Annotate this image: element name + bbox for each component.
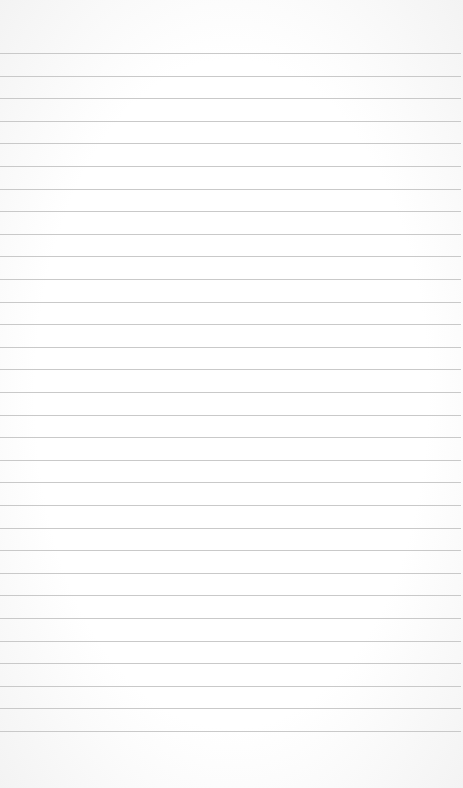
ruled-line [0, 234, 461, 235]
ruled-line [0, 641, 461, 642]
ruled-line [0, 211, 461, 212]
ruled-line [0, 369, 461, 370]
ruled-line [0, 53, 461, 54]
ruled-line [0, 731, 461, 732]
ruled-line [0, 279, 461, 280]
ruled-line [0, 98, 461, 99]
ruled-line [0, 595, 461, 596]
ruled-line [0, 437, 461, 438]
ruled-line [0, 460, 461, 461]
ruled-line [0, 76, 461, 77]
ruled-line [0, 121, 461, 122]
ruled-line [0, 550, 461, 551]
ruled-line [0, 528, 461, 529]
ruled-line [0, 392, 461, 393]
ruled-line [0, 189, 461, 190]
ruled-line [0, 143, 461, 144]
ruled-line [0, 663, 461, 664]
ruled-line [0, 708, 461, 709]
ruled-line [0, 347, 461, 348]
ruled-line [0, 573, 461, 574]
ruled-line [0, 166, 461, 167]
ruled-line [0, 482, 461, 483]
lined-paper [0, 0, 463, 788]
ruled-line [0, 256, 461, 257]
ruled-line [0, 618, 461, 619]
ruled-line [0, 324, 461, 325]
ruled-line [0, 302, 461, 303]
ruled-line [0, 505, 461, 506]
ruled-line [0, 686, 461, 687]
ruled-line [0, 415, 461, 416]
